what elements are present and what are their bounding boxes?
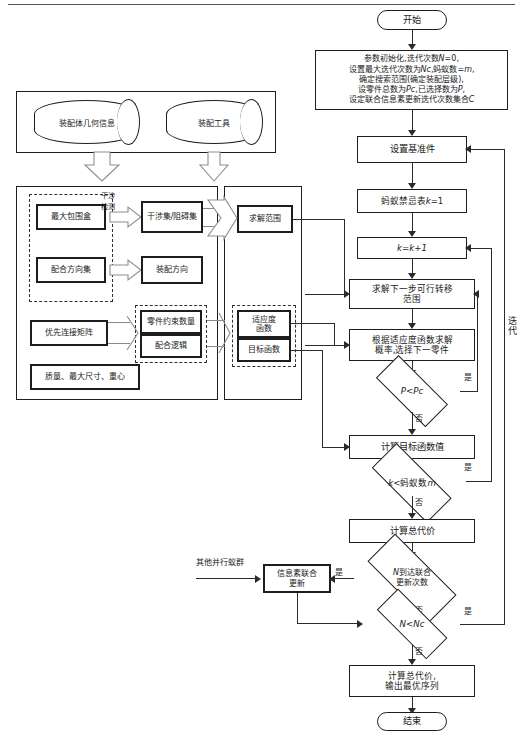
node-interference-obstruction-set[interactable]: 干涉集/阻碍集 — [141, 201, 203, 233]
node-assembly-direction[interactable]: 装配方向 — [141, 256, 203, 284]
line-fitness-into-flow — [305, 345, 349, 346]
line-decn-yes-right — [460, 624, 505, 625]
line-deck-yes-right — [466, 481, 492, 482]
arrow-decn-yes-to-datum — [465, 145, 471, 153]
arrow-external-to-jointupdate — [255, 575, 261, 583]
block-arrow-matedir-to-asmdir — [110, 260, 142, 280]
decision-label: N到达联合 更新次数 — [352, 552, 472, 604]
arrow-fitness-into-flow — [344, 341, 350, 349]
next-range-line2: 范围 — [403, 294, 421, 304]
next-range-line1: 求解下一步可行转移 — [372, 284, 453, 294]
node-priority-connection-matrix[interactable]: 优先连接矩阵 — [30, 320, 108, 346]
block-arrow-tools-down — [199, 152, 229, 182]
node-ant-taboo-table[interactable]: 蚂蚁禁忌表k=1 — [357, 189, 467, 213]
flowchart-canvas: 装配体几何信息 装配工具 最大包围盒 配合方向集 干涉 检测 干涉集/阻碍集 — [0, 0, 523, 734]
node-start[interactable]: 开始 — [377, 10, 447, 30]
label-yes-p: 是 — [464, 371, 472, 382]
init-line-3: 确定搜索范围(确定装配层级), — [359, 75, 464, 85]
final-line1: 计算总代价, — [388, 671, 436, 681]
arrow-objective-into-flow — [344, 443, 350, 451]
node-set-datum-part[interactable]: 设置基准件 — [357, 136, 467, 163]
node-initialize-parameters[interactable]: 参数初始化,迭代次数N=0, 设置最大迭代次数为Nc,蚂蚁数=m, 确定搜索范围… — [315, 50, 508, 110]
label-interference-detection-line1: 干涉 — [101, 190, 115, 200]
decision-p-expr: P<Pc — [401, 386, 423, 396]
node-end[interactable]: 结束 — [377, 712, 447, 731]
line-decjoint-to-jointupdate — [333, 578, 354, 579]
joint-line1: N到达联合 — [393, 568, 431, 578]
line-jointupdate-down — [297, 593, 298, 624]
line-fitness-out — [291, 323, 335, 324]
block-arrow-matrix-to-constraints — [126, 316, 140, 350]
node-objective-function[interactable]: 目标函数 — [237, 338, 291, 362]
block-arrow-bbox-to-interference — [110, 206, 142, 228]
block-arrow-to-function-group — [218, 313, 232, 353]
decision-k-expr: k<蚂蚁数m — [388, 476, 436, 488]
line-external-colonies — [196, 578, 256, 579]
decision-p-lt-pc[interactable]: P<Pc — [364, 370, 460, 412]
node-part-constraint-count[interactable]: 零件约束数量 — [140, 310, 202, 334]
line-jointupdate-to-decn — [297, 623, 360, 624]
line-range-out — [293, 219, 345, 220]
cylinder-assembly-geometry: 装配体几何信息 — [34, 100, 139, 144]
cylinder-assembly-tools: 装配工具 — [166, 100, 262, 144]
node-fitness-function[interactable]: 适应度 函数 — [237, 310, 291, 338]
label-no-p: 否 — [415, 412, 423, 423]
node-total-cost[interactable]: 计算总代价 — [349, 519, 475, 543]
init-line-4: 设零件总数为Pc,已选择数为P, — [358, 85, 465, 95]
line-deck-yes-up — [491, 248, 492, 481]
label-no-n: 否 — [415, 645, 423, 656]
arrow-decp-yes-to-range — [473, 290, 479, 298]
label-iteration-vertical: 迭代 — [508, 316, 517, 336]
decision-label: k<蚂蚁数m — [358, 468, 466, 496]
node-final-output[interactable]: 计算总代价, 输出最优序列 — [349, 665, 475, 697]
init-line-2: 设置最大迭代次数为Nc,蚂蚁数=m, — [349, 65, 475, 75]
decision-label: N<Nc — [364, 604, 460, 644]
line-fitness-down — [334, 323, 335, 345]
joint-update-line1: 信息素联合 — [277, 569, 317, 579]
decision-label: P<Pc — [364, 370, 460, 412]
select-part-line2: 概率,选择下一零件 — [375, 345, 450, 355]
arrow-decjoint-to-jointupdate — [329, 575, 335, 583]
decision-joint-update-count[interactable]: N到达联合 更新次数 — [352, 552, 472, 604]
node-pheromone-joint-update[interactable]: 信息素联合 更新 — [263, 564, 331, 593]
line-decn-yes-to-datum — [467, 149, 505, 150]
node-k-increment[interactable]: k=k+1 — [357, 237, 467, 259]
line-decp-yes-up — [477, 294, 478, 391]
init-line-5: 设定联合信息素更新迭代次数集合C — [349, 95, 475, 105]
label-yes-n: 是 — [464, 605, 472, 616]
node-mating-logic[interactable]: 配合逻辑 — [140, 334, 202, 358]
line-range-into-flow — [305, 294, 349, 295]
arrow-jointupdate-to-decn — [357, 620, 363, 628]
cylinder-label: 装配工具 — [166, 100, 262, 144]
page-top-rule — [8, 4, 515, 5]
final-line2: 输出最优序列 — [385, 681, 439, 691]
init-line-1: 参数初始化,迭代次数N=0, — [364, 54, 459, 64]
decision-n-expr: N<Nc — [400, 619, 425, 629]
cylinder-label: 装配体几何信息 — [34, 100, 139, 144]
line-init-to-datum — [412, 110, 413, 132]
label-no-k: 否 — [415, 496, 423, 507]
node-mass-size-centroid[interactable]: 质量、最大尺寸、重心 — [30, 364, 140, 390]
block-arrow-geometry-down — [84, 152, 120, 182]
line-objective-out — [291, 350, 323, 351]
decision-k-lt-m[interactable]: k<蚂蚁数m — [358, 450, 466, 496]
node-select-next-part[interactable]: 根据适应度函数求解 概率,选择下一零件 — [349, 329, 475, 361]
line-objective-down — [322, 350, 323, 447]
fitness-function-line1: 适应度 — [252, 315, 276, 324]
node-next-feasible-range[interactable]: 求解下一步可行转移 范围 — [349, 279, 475, 309]
joint-line2: 更新次数 — [396, 578, 428, 588]
arrow-deck-yes-to-kinc — [465, 244, 471, 252]
node-mating-direction-set[interactable]: 配合方向集 — [36, 257, 106, 283]
fitness-function-line2: 函数 — [256, 324, 272, 333]
decision-n-lt-nc[interactable]: N<Nc — [364, 604, 460, 644]
block-arrow-to-solution-range — [208, 197, 238, 241]
taboo-label: 蚂蚁禁忌表k=1 — [381, 196, 444, 206]
select-part-line1: 根据适应度函数求解 — [372, 335, 453, 345]
k-increment-label: k=k+1 — [397, 243, 427, 253]
node-max-bounding-box[interactable]: 最大包围盒 — [36, 204, 106, 230]
line-datum-to-taboo — [412, 163, 413, 185]
node-solution-range[interactable]: 求解范围 — [237, 205, 293, 233]
line-range-down — [344, 219, 345, 294]
label-other-parallel-colonies: 其他并行蚁群 — [196, 556, 244, 567]
line-decn-yes-up — [504, 149, 505, 624]
